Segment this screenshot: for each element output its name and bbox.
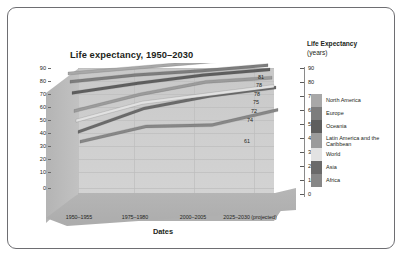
- y-axis-right-tick: [300, 166, 304, 167]
- y-axis-left-tick-label: 80: [30, 78, 46, 84]
- y-axis-right-line: [304, 67, 305, 197]
- y-axis-left-tick-label: 20: [30, 156, 46, 162]
- legend-label: North America: [326, 94, 361, 103]
- y-axis-right-tick-label: 0: [308, 191, 322, 197]
- legend-item-latin-america[interactable]: Latin America and the Caribbean: [311, 133, 395, 148]
- y-axis-left-tick-label: 0: [30, 185, 46, 191]
- y-axis-left-tick: [48, 94, 51, 95]
- legend-label: Latin America and the Caribbean: [326, 133, 395, 148]
- data-label-oceania: 78: [254, 91, 260, 97]
- data-label-africa: 61: [244, 138, 250, 144]
- x-axis-tick-label: 2000–2005: [163, 214, 223, 221]
- legend-swatch-icon: [311, 120, 322, 133]
- y-axis-right-tick-label: 90: [308, 65, 322, 71]
- y-axis-left-tick: [48, 68, 51, 69]
- legend-swatch-icon: [311, 148, 322, 161]
- data-label-asia: 74: [247, 117, 253, 123]
- data-label-europe: 78: [256, 82, 262, 88]
- y-axis-left-tick-label: 30: [30, 143, 46, 149]
- legend-label: Asia: [326, 161, 337, 170]
- y-axis-left-tick-label: 40: [30, 130, 46, 136]
- y-axis-left-tick-label: 50: [30, 117, 46, 123]
- y-axis-right-tick: [300, 82, 304, 83]
- y-axis-left-tick: [48, 146, 51, 147]
- x-axis-title: Dates: [123, 227, 203, 236]
- y-axis-left-tick-label: 70: [30, 91, 46, 97]
- legend-swatch-icon: [311, 174, 322, 187]
- data-label-latin-america: 75: [253, 99, 259, 105]
- legend-item-oceania[interactable]: Oceania: [311, 120, 395, 133]
- page-title: Life expectancy, 1950–2030: [70, 50, 193, 60]
- y-axis-right-tick: [300, 180, 304, 181]
- legend-item-europe[interactable]: Europe: [311, 107, 395, 120]
- y-axis-title-text: Life Expectancy: [307, 39, 387, 48]
- y-axis-left-tick: [48, 172, 51, 173]
- y-axis-left-tick: [48, 107, 51, 108]
- y-axis-left-tick: [48, 120, 51, 121]
- legend-swatch-icon: [311, 133, 322, 148]
- x-axis-tick-label: 1975–1980: [105, 214, 165, 221]
- legend-label: World: [326, 148, 340, 157]
- legend-swatch-icon: [311, 107, 322, 120]
- legend-item-asia[interactable]: Asia: [311, 161, 395, 174]
- y-axis-left-tick-label: 60: [30, 104, 46, 110]
- y-axis-right-tick: [300, 110, 304, 111]
- legend-label: Oceania: [326, 120, 347, 129]
- legend-label: Africa: [326, 174, 340, 183]
- y-axis-left-tick-label: 90: [30, 65, 46, 71]
- y-axis-title: Life Expectancy (years): [307, 39, 387, 57]
- y-axis-left-tick: [48, 159, 51, 160]
- x-axis-tick-label: 1950–1955: [49, 214, 109, 221]
- y-axis-left-tick: [48, 81, 51, 82]
- y-axis-right-tick: [300, 68, 304, 69]
- data-label-world: 72: [251, 108, 257, 114]
- y-axis-left-tick-label: 10: [30, 169, 46, 175]
- legend-item-africa[interactable]: Africa: [311, 174, 395, 187]
- y-axis-right-tick: [300, 138, 304, 139]
- legend-swatch-icon: [311, 94, 322, 107]
- y-axis-unit-text: (years): [307, 48, 387, 57]
- y-axis-left-tick: [48, 133, 51, 134]
- x-axis-tick-label: 2025–2030 (projected): [220, 214, 280, 221]
- legend-item-world[interactable]: World: [311, 148, 395, 161]
- y-axis-left-tick: [48, 188, 51, 189]
- y-axis-right-tick: [300, 194, 304, 195]
- y-axis-right-tick-label: 80: [308, 79, 322, 85]
- data-label-north-america: 81: [258, 74, 264, 80]
- y-axis-right-tick: [300, 124, 304, 125]
- y-axis-right-tick: [300, 152, 304, 153]
- chart-frame: Life expectancy, 1950–2030 Life Expectan…: [7, 7, 395, 249]
- chart-legend: North America Europe Oceania Latin Ameri…: [311, 94, 395, 187]
- legend-swatch-icon: [311, 161, 322, 174]
- legend-item-north-america[interactable]: North America: [311, 94, 395, 107]
- y-axis-right-tick: [300, 96, 304, 97]
- legend-label: Europe: [326, 107, 344, 116]
